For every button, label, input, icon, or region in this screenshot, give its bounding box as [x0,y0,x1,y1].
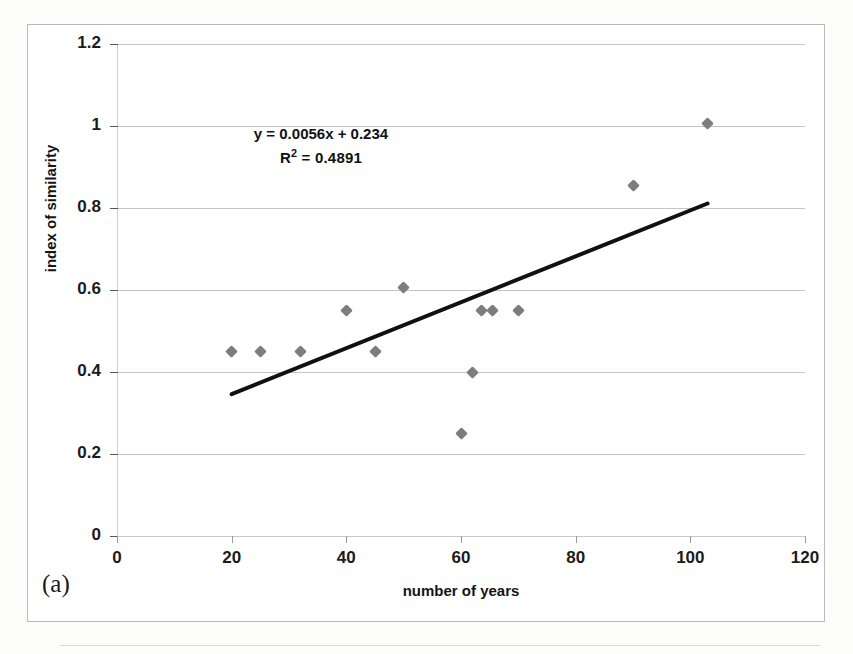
regression-equation: y = 0.0056x + 0.234 [196,122,446,145]
y-axis-title: index of similarity [42,99,59,319]
subfigure-label: (a) [42,570,70,598]
regression-r-squared: R2 = 0.4891 [196,145,446,169]
scan-artifact-line [60,645,820,646]
r-squared-prefix: R [280,149,291,166]
r-squared-value: = 0.4891 [297,149,362,166]
x-axis-title: number of years [117,582,805,599]
trendline [0,0,853,654]
regression-annotation: y = 0.0056x + 0.234 R2 = 0.4891 [196,122,446,170]
scatter-chart: 00.20.40.60.811.2 020406080100120 y = 0.… [0,0,853,654]
scanned-page: 00.20.40.60.811.2 020406080100120 y = 0.… [0,0,853,654]
